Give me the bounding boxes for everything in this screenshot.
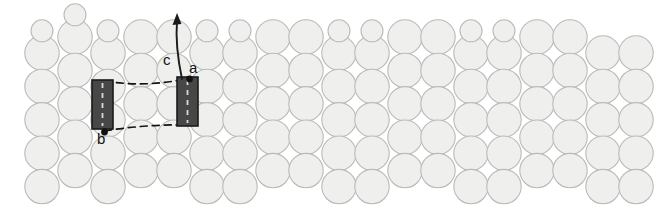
atom-circle [388,120,422,154]
atom-circle [25,169,59,203]
atom-circle [520,120,554,154]
atom-circle [520,53,554,87]
atom-circle [454,136,488,170]
atom-circle [157,20,191,54]
atom-circle [322,103,356,137]
atom-circle [289,153,323,187]
axis-label-c: c [163,52,171,67]
atom-circle [553,153,587,187]
atom-circle [421,20,455,54]
atom-circle [58,53,92,87]
atom-circle [619,169,653,203]
atom-circle [619,136,653,170]
atom-circle [91,136,125,170]
atom-circle [25,69,59,103]
atom-circle [421,120,455,154]
atom-circle [124,20,158,54]
atom-circle [520,87,554,121]
atom-circle-small [97,20,119,42]
atom-circle [487,103,521,137]
atom-circle [289,87,323,121]
atom-circle [619,69,653,103]
atom-circle [289,20,323,54]
atom-circle [586,136,620,170]
atom-circle [223,103,257,137]
atom-circle [256,20,290,54]
atom-circle [586,103,620,137]
atom-circle-small [460,20,482,42]
atom-circle [58,87,92,121]
atom-circle [553,20,587,54]
atom-circle-small [328,20,350,42]
atom-circle-small [31,20,53,42]
atom-circle [388,20,422,54]
atom-circle [421,153,455,187]
atom-circle [454,103,488,137]
lattice-canvas [0,0,669,211]
lattice-figure: a b c [0,0,669,211]
atom-circle [124,153,158,187]
atom-circle [355,69,389,103]
atom-circle [25,136,59,170]
axis-label-a: a [189,60,197,75]
atom-circle [289,53,323,87]
vertex-a-marker [186,76,193,83]
atom-circle-small [493,20,515,42]
atom-circle [388,87,422,121]
atom-circle [586,169,620,203]
atom-circle [256,120,290,154]
atom-circle [25,103,59,137]
atom-circle [586,69,620,103]
atom-circle [520,153,554,187]
atom-circle [487,169,521,203]
atom-circle [355,169,389,203]
axis-label-b: b [97,131,105,146]
atom-circle [223,69,257,103]
atom-circle [223,169,257,203]
atom-circle [91,169,125,203]
atom-circle [190,169,224,203]
atom-layer [25,4,653,204]
atom-circle [322,136,356,170]
atom-circle [256,53,290,87]
atom-circle [58,153,92,187]
atom-circle [157,153,191,187]
atom-circle-small [361,20,383,42]
atom-circle [553,87,587,121]
atom-circle [619,103,653,137]
atom-circle [355,136,389,170]
atom-circle [322,169,356,203]
atom-circle [421,87,455,121]
atom-circle-small [64,4,86,26]
atom-circle [553,53,587,87]
atom-circle [487,69,521,103]
atom-circle [256,153,290,187]
atom-circle [322,69,356,103]
atom-circle-small [229,20,251,42]
atom-circle [355,103,389,137]
atom-circle [454,169,488,203]
atom-circle [421,53,455,87]
c-axis-arrowhead [173,13,182,25]
atom-circle-small [196,20,218,42]
atom-circle [619,36,653,70]
atom-circle [223,136,257,170]
atom-circle [58,120,92,154]
atom-circle [190,136,224,170]
atom-circle [586,36,620,70]
atom-circle [388,153,422,187]
atom-circle [520,20,554,54]
atom-circle [454,69,488,103]
atom-circle [487,136,521,170]
atom-circle [256,87,290,121]
atom-circle [388,53,422,87]
atom-circle [289,120,323,154]
atom-circle [124,53,158,87]
atom-circle [553,120,587,154]
atom-circle [124,87,158,121]
